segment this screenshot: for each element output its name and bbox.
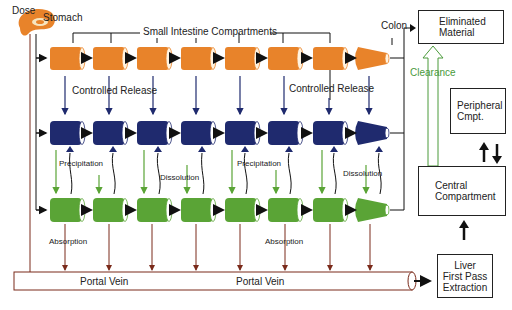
box-line: Central xyxy=(435,180,505,191)
liver-box: Liver First Pass Extraction xyxy=(437,254,493,298)
dissolved-row xyxy=(50,198,389,222)
dissolution-label-1: Dissolution xyxy=(160,174,199,182)
absorption-label-2: Absorption xyxy=(265,238,303,246)
box-line: Cmpt. xyxy=(457,111,505,122)
absorption-label-1: Absorption xyxy=(49,238,87,246)
eliminated-material-box: Eliminated Material xyxy=(418,10,504,44)
box-line: Eliminated xyxy=(439,16,503,27)
colon-label: Colon xyxy=(381,21,407,31)
portal-vein-tube xyxy=(14,272,416,290)
portal-vein-label-1: Portal Vein xyxy=(80,277,128,287)
box-line: First Pass xyxy=(443,271,487,282)
box-line: Compartment xyxy=(435,191,505,202)
acat-diagram xyxy=(0,0,512,310)
box-line: Extraction xyxy=(443,282,487,293)
central-compartment-box: Central Compartment xyxy=(418,166,506,216)
portal-vein-label-2: Portal Vein xyxy=(236,277,284,287)
precipitation-label-2: Precipitation xyxy=(237,160,281,168)
release-row xyxy=(50,47,389,70)
undissolved-row xyxy=(50,121,389,145)
box-line: Liver xyxy=(454,260,476,271)
peripheral-compartment-box: Peripheral Cmpt. xyxy=(450,88,506,134)
stomach-label: Stomach xyxy=(43,13,82,23)
dissolution-label-2: Dissolution xyxy=(343,170,382,178)
clearance-arrow xyxy=(423,46,443,166)
dose-label: Dose xyxy=(12,6,35,16)
box-line: Material xyxy=(439,27,503,38)
controlled-release-label-1: Controlled Release xyxy=(72,86,157,96)
clearance-label: Clearance xyxy=(410,68,456,78)
controlled-release-label-2: Controlled Release xyxy=(289,84,374,94)
box-line: Peripheral xyxy=(457,100,505,111)
small-intestine-label: Small Intestine Compartments xyxy=(143,27,277,37)
precipitation-label-1: Precipitation xyxy=(59,160,103,168)
